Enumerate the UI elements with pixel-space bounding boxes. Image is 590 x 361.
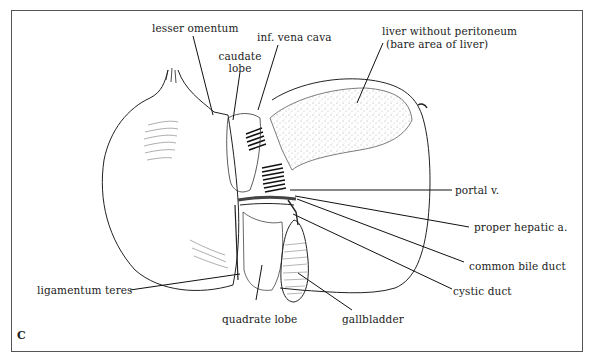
label-proper-hepatic-artery: proper hepatic a. <box>474 221 567 233</box>
label-quadrate-lobe: quadrate lobe <box>222 313 297 325</box>
label-ligamentum-teres: ligamentum teres <box>37 284 133 296</box>
label-gallbladder: gallbladder <box>342 313 404 325</box>
label-portal-vein: portal v. <box>455 184 499 196</box>
label-inf-vena-cava: inf. vena cava <box>257 31 332 43</box>
quadrate-lobe <box>243 212 283 290</box>
caudate-lobe <box>227 114 261 192</box>
label-caudate-lobe-line1: caudate <box>218 50 262 62</box>
label-bare-area-line1: liver without peritoneum <box>382 25 517 37</box>
panel-letter: C <box>17 329 26 342</box>
label-cystic-duct: cystic duct <box>453 285 512 297</box>
right-lobe <box>270 79 430 293</box>
label-caudate-lobe-line2: lobe <box>218 62 262 74</box>
hepatic-hilum <box>235 197 298 280</box>
liver-illustration <box>0 0 590 361</box>
left-lobe <box>102 68 238 290</box>
label-common-bile-duct: common bile duct <box>469 260 566 272</box>
label-lesser-omentum: lesser omentum <box>152 22 239 34</box>
label-bare-area-line2: (bare area of liver) <box>386 38 488 50</box>
